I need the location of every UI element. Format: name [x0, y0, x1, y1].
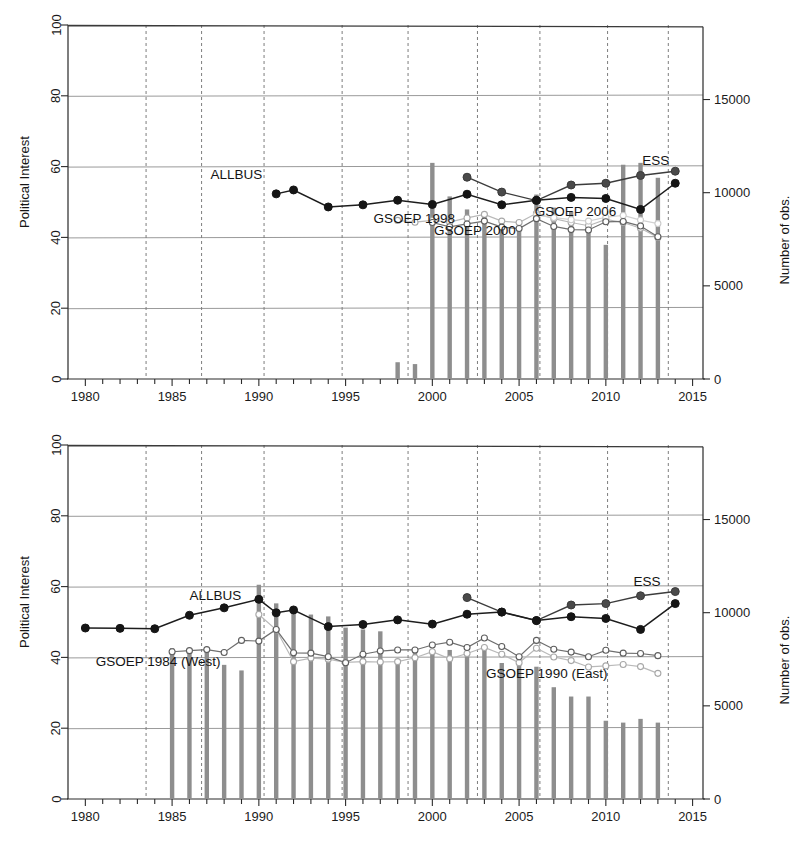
- y-axis-left-title: Political Interest: [17, 136, 32, 228]
- y-axis-right: 050001000015000Number of obs.: [703, 512, 792, 806]
- y-left-tick-label: 40: [49, 650, 64, 664]
- annotation-gsoep-2006: GSOEP 2006: [535, 204, 617, 219]
- x-axis: 19801985199019952000200520102015: [71, 379, 707, 404]
- y-left-tick-label: 60: [49, 159, 64, 173]
- x-tick-label: 2010: [591, 389, 620, 404]
- y-right-tick-label: 10000: [714, 605, 750, 620]
- x-tick-label: 1990: [244, 389, 273, 404]
- x-tick-label: 1995: [331, 389, 360, 404]
- x-tick-label: 1980: [71, 389, 100, 404]
- y-axis-right-title: Number of obs.: [777, 616, 792, 705]
- chart-panel-top: 1980198519901995200020052010201502040608…: [0, 0, 800, 420]
- y-right-tick-label: 0: [714, 792, 721, 807]
- x-tick-label: 2000: [418, 389, 447, 404]
- y-left-tick-label: 20: [49, 301, 64, 315]
- y-right-tick-label: 5000: [714, 278, 743, 293]
- y-axis-left: 020406080100Political Interest: [17, 14, 69, 382]
- y-right-tick-label: 10000: [714, 185, 750, 200]
- y-axis-right: 050001000015000Number of obs.: [703, 92, 792, 386]
- y-axis-left: 020406080100Political Interest: [17, 434, 69, 802]
- x-tick-label: 2015: [678, 809, 707, 824]
- x-tick-label: 1985: [158, 809, 187, 824]
- figure-root: 1980198519901995200020052010201502040608…: [0, 0, 800, 845]
- y-left-tick-label: 80: [49, 509, 64, 523]
- y-left-tick-label: 0: [49, 375, 64, 382]
- bar-series-number-of-obs: [395, 163, 660, 379]
- x-tick-label: 2010: [591, 809, 620, 824]
- y-left-tick-label: 100: [49, 434, 64, 456]
- series-allbus: [81, 595, 679, 633]
- chart-svg-bottom: 1980198519901995200020052010201502040608…: [0, 420, 800, 840]
- chart-svg-top: 1980198519901995200020052010201502040608…: [0, 0, 800, 420]
- x-tick-label: 2005: [505, 809, 534, 824]
- x-tick-label: 1980: [71, 809, 100, 824]
- y-left-tick-label: 20: [49, 721, 64, 735]
- annotation-gsoep-1984-west: GSOEP 1984 (West): [96, 654, 221, 669]
- annotation-ess: ESS: [634, 574, 661, 589]
- annotation-gsoep-1990-east: GSOEP 1990 (East): [486, 666, 607, 681]
- x-tick-label: 1995: [331, 809, 360, 824]
- x-tick-label: 2015: [678, 389, 707, 404]
- annotation-allbus: ALLBUS: [211, 167, 263, 182]
- x-tick-label: 2005: [505, 389, 534, 404]
- x-tick-label: 1990: [244, 809, 273, 824]
- x-tick-label: 1985: [158, 389, 187, 404]
- y-right-tick-label: 5000: [714, 698, 743, 713]
- x-tick-label: 2000: [418, 809, 447, 824]
- y-left-tick-label: 40: [49, 230, 64, 244]
- y-left-tick-label: 60: [49, 579, 64, 593]
- y-axis-right-title: Number of obs.: [777, 196, 792, 285]
- plot-frame: [67, 446, 705, 800]
- annotation-ess: ESS: [642, 153, 669, 168]
- y-left-tick-label: 80: [49, 89, 64, 103]
- series-allbus: [272, 179, 679, 213]
- y-right-tick-label: 0: [714, 372, 721, 387]
- annotation-gsoep-2000: GSOEP 2000: [434, 223, 516, 238]
- y-left-tick-label: 0: [49, 795, 64, 802]
- y-axis-left-title: Political Interest: [17, 556, 32, 648]
- y-left-tick-label: 100: [49, 14, 64, 36]
- y-right-tick-label: 15000: [714, 512, 750, 527]
- annotation-allbus: ALLBUS: [189, 588, 241, 603]
- x-axis: 19801985199019952000200520102015: [71, 799, 707, 824]
- chart-panel-bottom: 1980198519901995200020052010201502040608…: [0, 420, 800, 840]
- y-right-tick-label: 15000: [714, 92, 750, 107]
